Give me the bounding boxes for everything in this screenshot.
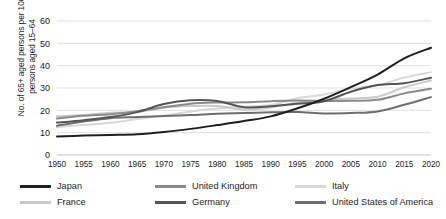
legend-label: United Kingdom bbox=[192, 181, 257, 191]
x-tick-label: 2015 bbox=[395, 160, 414, 169]
x-tick-label: 1970 bbox=[155, 160, 174, 169]
x-tick-label: 2010 bbox=[368, 160, 387, 169]
legend-label: United States of America bbox=[332, 197, 433, 207]
legend-swatch-icon bbox=[155, 185, 186, 188]
legend-label: Italy bbox=[332, 181, 349, 191]
x-tick-label: 1990 bbox=[262, 160, 281, 169]
y-tick-label: 10 bbox=[40, 128, 50, 138]
y-tick-label: 50 bbox=[40, 39, 50, 49]
legend-item-japan[interactable]: Japan bbox=[0, 181, 155, 191]
chart-legend: JapanUnited KingdomItalyFranceGermanyUni… bbox=[0, 178, 446, 218]
x-tick-label: 1965 bbox=[128, 160, 147, 169]
y-tick-label: 0 bbox=[45, 150, 50, 160]
y-tick-label: 60 bbox=[40, 16, 50, 26]
x-tick-label: 1955 bbox=[75, 160, 94, 169]
x-tick-label: 1960 bbox=[101, 160, 120, 169]
series-line-united-kingdom bbox=[57, 89, 431, 119]
legend-row: FranceGermanyUnited States of America bbox=[0, 194, 446, 210]
data-series-group bbox=[57, 48, 431, 137]
y-tick-label: 30 bbox=[40, 83, 50, 93]
y-tick-labels: 0102030405060 bbox=[40, 16, 50, 160]
legend-item-united-kingdom[interactable]: United Kingdom bbox=[155, 181, 295, 191]
x-tick-label: 2020 bbox=[422, 160, 441, 169]
x-tick-label: 1995 bbox=[288, 160, 307, 169]
line-chart: No. of 65+ aged persons per 100 persons … bbox=[0, 0, 446, 219]
x-tick-label: 1950 bbox=[48, 160, 67, 169]
x-tick-label: 2005 bbox=[342, 160, 361, 169]
legend-label: France bbox=[57, 197, 86, 207]
legend-label: Germany bbox=[192, 197, 230, 207]
legend-item-france[interactable]: France bbox=[0, 197, 155, 207]
x-tick-label: 1980 bbox=[208, 160, 227, 169]
legend-item-germany[interactable]: Germany bbox=[155, 197, 295, 207]
x-tick-label: 2000 bbox=[315, 160, 334, 169]
legend-swatch-icon bbox=[295, 201, 326, 204]
y-tick-label: 40 bbox=[40, 61, 50, 71]
legend-label: Japan bbox=[57, 181, 82, 191]
legend-item-italy[interactable]: Italy bbox=[295, 181, 446, 191]
plot-area: 0102030405060 19501955196019651970197519… bbox=[0, 0, 446, 172]
y-tick-label: 20 bbox=[40, 106, 50, 116]
legend-row: JapanUnited KingdomItaly bbox=[0, 178, 446, 194]
legend-swatch-icon bbox=[20, 201, 51, 204]
x-tick-label: 1975 bbox=[181, 160, 200, 169]
plot-svg: 0102030405060 19501955196019651970197519… bbox=[0, 0, 446, 172]
legend-swatch-icon bbox=[155, 201, 186, 204]
x-tick-label: 1985 bbox=[235, 160, 254, 169]
legend-swatch-icon bbox=[20, 185, 51, 188]
x-tick-labels: 1950195519601965197019751980198519901995… bbox=[48, 160, 441, 169]
legend-item-united-states-of-america[interactable]: United States of America bbox=[295, 197, 446, 207]
legend-swatch-icon bbox=[295, 185, 326, 188]
